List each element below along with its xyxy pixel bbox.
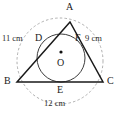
- side-length-ac: 9 cm: [85, 34, 102, 43]
- incenter-label-o: O: [57, 58, 64, 68]
- side-length-bc: 12 cm: [44, 99, 65, 108]
- vertex-label-b: B: [4, 76, 11, 86]
- tangent-point-label-e: E: [57, 85, 63, 95]
- vertex-label-a: A: [66, 2, 73, 12]
- tangent-point-label-d: D: [35, 33, 42, 43]
- tangent-point-label-f: F: [75, 33, 81, 43]
- geometry-figure: A B C D F E O 11 cm 9 cm 12 cm: [0, 0, 123, 119]
- vertex-label-c: C: [107, 76, 114, 86]
- incenter-dot: [59, 50, 62, 53]
- side-length-ab: 11 cm: [2, 34, 23, 43]
